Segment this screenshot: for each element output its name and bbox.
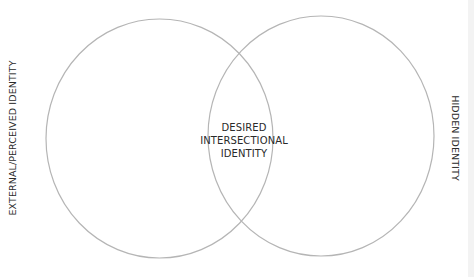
intersection-line-3: IDENTITY [200, 147, 288, 160]
left-circle-label: EXTERNAL/PERCEIVED IDENTITY [7, 60, 18, 215]
intersection-line-2: INTERSECTIONAL [200, 134, 288, 147]
right-circle-label: HIDDEN IDENTITY [450, 95, 461, 181]
intersection-label: DESIRED INTERSECTIONAL IDENTITY [200, 121, 288, 160]
intersection-line-1: DESIRED [200, 121, 288, 134]
